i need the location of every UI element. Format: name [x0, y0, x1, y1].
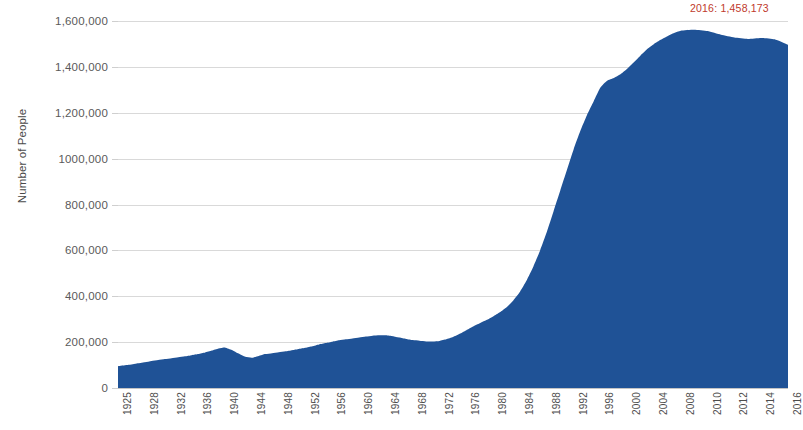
x-axis-tick-label: 1988: [551, 392, 562, 415]
x-axis-tick-label: 2012: [738, 392, 749, 415]
y-axis-tick-label: 800,000: [65, 199, 108, 211]
x-axis-tick-label: 1956: [336, 392, 347, 415]
x-axis-tick-label: 1948: [283, 392, 294, 415]
x-axis-tick-label: 2014: [765, 392, 776, 415]
x-axis-tick-label: 2008: [685, 392, 696, 415]
x-axis-tick-label: 1952: [310, 392, 321, 415]
x-axis-tick-label: 1992: [578, 392, 589, 415]
x-axis-tick-label: 1980: [497, 392, 508, 415]
x-axis-tick-label: 1968: [417, 392, 428, 415]
x-axis-tick-label: 1940: [229, 392, 240, 415]
x-axis-tick-label: 2010: [712, 392, 723, 415]
y-axis-tick-label: 1,600,000: [55, 15, 108, 27]
x-axis-tick-label: 1996: [604, 392, 615, 415]
x-axis-tick-label: 1936: [202, 392, 213, 415]
y-axis-tick-label: 1,200,000: [55, 107, 108, 119]
x-axis-tick-label: 2004: [658, 392, 669, 415]
y-axis-tick-label: 1,400,000: [55, 61, 108, 73]
plot-area: [118, 0, 788, 430]
value-annotation: 2016: 1,458,173: [690, 2, 769, 14]
y-axis-tick-label: 1000,000: [58, 153, 108, 165]
x-axis-tick-label: 1932: [176, 392, 187, 415]
x-axis-tick-label: 2000: [631, 392, 642, 415]
x-axis-tick-label: 1960: [363, 392, 374, 415]
x-axis-tick-label: 1928: [149, 392, 160, 415]
x-axis-tick-label: 1964: [390, 392, 401, 415]
x-axis-tick-label: 1925: [122, 392, 133, 415]
y-axis-tick-label: 200,000: [65, 336, 108, 348]
area-series-path: [118, 30, 788, 388]
x-axis-tick-label: 1972: [444, 392, 455, 415]
y-axis-tick-label: 400,000: [65, 290, 108, 302]
y-axis-tick-label: 600,000: [65, 244, 108, 256]
x-axis-tick-label: 1944: [256, 392, 267, 415]
x-axis-tick-label: 1984: [524, 392, 535, 415]
y-axis-tick-labels: 1,600,0001,400,0001,200,0001000,000800,0…: [0, 0, 108, 430]
area-series: [118, 0, 788, 430]
x-axis-tick-label: 2016: [792, 392, 803, 415]
y-axis-tick-label: 0: [101, 382, 108, 394]
x-axis-tick-label: 1976: [470, 392, 481, 415]
